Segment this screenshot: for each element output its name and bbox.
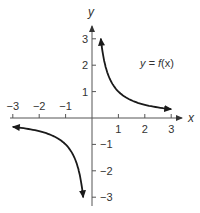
- y-tick-label: 3: [82, 33, 88, 45]
- function-label: y = f(x): [139, 57, 174, 69]
- y-tick-label: −2: [100, 165, 113, 177]
- function-label-y: y =: [139, 57, 158, 69]
- x-tick-label: 2: [142, 123, 148, 135]
- curve-positive-branch: [101, 39, 171, 110]
- x-tick-label: −3: [7, 100, 20, 112]
- x-tick-label: 1: [115, 123, 121, 135]
- y-tick-label: −1: [100, 138, 113, 150]
- y-axis: −3−2−1123 y: [82, 5, 113, 206]
- function-label-arg: (x): [161, 57, 174, 69]
- function-graph: −3−2−1123 x −3−2−1123 y y = f(x): [0, 0, 200, 213]
- curve-negative-branch: [13, 127, 83, 198]
- y-tick-label: 2: [82, 59, 88, 71]
- y-axis-label: y: [87, 5, 95, 19]
- y-tick-label: −3: [100, 191, 113, 203]
- x-tick-label: 3: [168, 123, 174, 135]
- x-axis-label: x: [187, 111, 195, 125]
- y-tick-label: 1: [82, 86, 88, 98]
- x-tick-label: −1: [59, 100, 72, 112]
- x-tick-label: −2: [33, 100, 46, 112]
